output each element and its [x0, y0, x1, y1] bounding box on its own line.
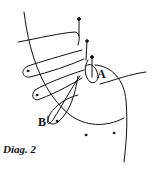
fabric-edge-curve — [24, 12, 124, 124]
dot-bottom-1 — [85, 134, 87, 136]
pin-2 — [86, 41, 87, 60]
pin-3-head — [91, 56, 94, 59]
dot-bottom-2 — [113, 132, 115, 134]
diagram-canvas: A B Diag. 2 — [0, 0, 156, 171]
diagram-caption: Diag. 2 — [3, 144, 36, 155]
label-a: A — [97, 68, 106, 80]
pin-2-head — [86, 40, 89, 43]
dot-loop-b — [56, 120, 58, 122]
right-thread — [100, 72, 146, 84]
dot-loop-1 — [27, 70, 29, 72]
pin-1-head — [78, 18, 81, 21]
dot-loop-2 — [36, 94, 38, 96]
label-b: B — [38, 116, 46, 128]
